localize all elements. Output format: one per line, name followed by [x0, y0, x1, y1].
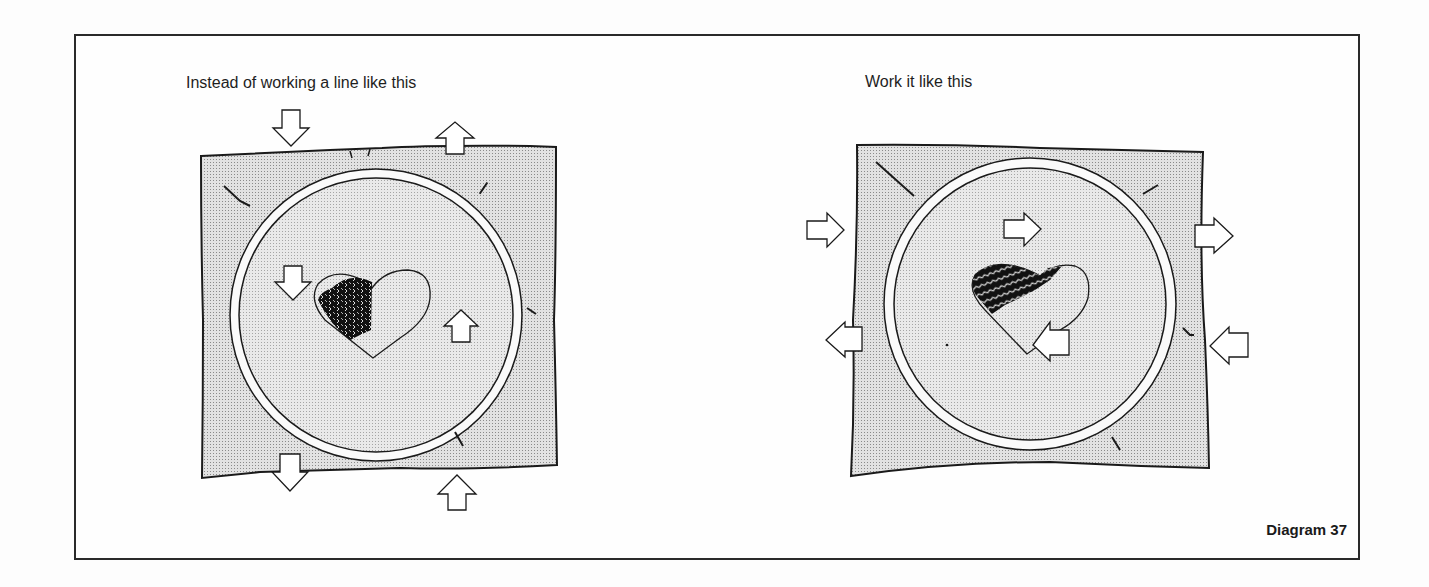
- arrow-right-icon: [807, 213, 844, 247]
- panel-correct: [807, 145, 1248, 476]
- panel-wrong: [201, 110, 557, 510]
- arrow-down-icon: [273, 110, 309, 146]
- arrow-left-icon: [1210, 327, 1248, 364]
- embroidery-illustration: [0, 0, 1429, 587]
- arrow-up-icon: [438, 475, 476, 510]
